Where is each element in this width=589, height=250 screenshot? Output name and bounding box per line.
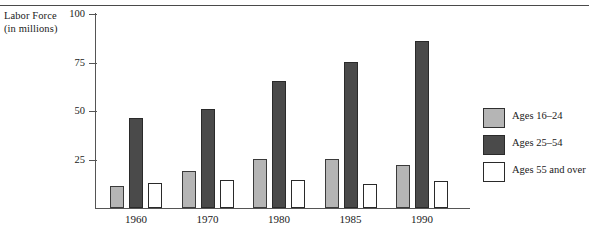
x-axis-label-1980: 1980 <box>246 213 312 225</box>
bar-1985-series-1 <box>344 62 358 208</box>
bar-1980-series-1 <box>272 81 286 208</box>
y-axis-label-100: 100 <box>51 9 85 20</box>
x-axis-label-1990: 1990 <box>389 213 455 225</box>
bar-1990-series-1 <box>415 41 429 208</box>
bar-1990-series-2 <box>434 181 448 208</box>
bar-1970-series-2 <box>220 180 234 208</box>
bar-1970-series-1 <box>201 109 215 208</box>
y-axis-tick-75 <box>89 63 97 64</box>
bar-1970-series-0 <box>182 171 196 208</box>
bar-group-1990 <box>396 28 462 208</box>
y-axis-tick-50 <box>89 111 97 112</box>
bar-1985-series-2 <box>363 184 377 208</box>
legend: Ages 16–24 Ages 25–54 Ages 55 and over <box>483 108 587 189</box>
bar-1980-series-0 <box>253 159 267 208</box>
legend-item-2: Ages 55 and over <box>483 162 587 182</box>
x-axis-label-1985: 1985 <box>318 213 384 225</box>
bar-group-1970 <box>182 28 248 208</box>
legend-label-1: Ages 25–54 <box>512 135 562 149</box>
legend-swatch-icon-2 <box>483 162 505 182</box>
bar-1960-series-0 <box>110 186 124 208</box>
x-axis-label-1970: 1970 <box>175 213 241 225</box>
bar-1960-series-2 <box>148 183 162 208</box>
legend-swatch-icon-0 <box>483 108 505 128</box>
bar-group-1960 <box>110 28 176 208</box>
y-axis-label-25: 25 <box>51 155 85 166</box>
bar-1960-series-1 <box>129 118 143 208</box>
bar-group-1980 <box>253 28 319 208</box>
x-axis-label-1960: 1960 <box>103 213 169 225</box>
y-axis-tick-25 <box>89 160 97 161</box>
bar-1990-series-0 <box>396 165 410 208</box>
legend-item-0: Ages 16–24 <box>483 108 587 128</box>
chart-figure: Labor Force (in millions) 100755025 1960… <box>0 0 589 250</box>
legend-item-1: Ages 25–54 <box>483 135 587 155</box>
bar-1985-series-0 <box>325 159 339 208</box>
legend-label-2: Ages 55 and over <box>512 162 586 176</box>
y-axis-label-75: 75 <box>51 58 85 69</box>
y-axis-tick-100 <box>89 14 97 15</box>
legend-swatch-icon-1 <box>483 135 505 155</box>
legend-label-0: Ages 16–24 <box>512 108 562 122</box>
x-axis-line <box>95 208 470 209</box>
bar-1980-series-2 <box>291 180 305 208</box>
y-axis-label-50: 50 <box>51 106 85 117</box>
bar-group-1985 <box>325 28 391 208</box>
